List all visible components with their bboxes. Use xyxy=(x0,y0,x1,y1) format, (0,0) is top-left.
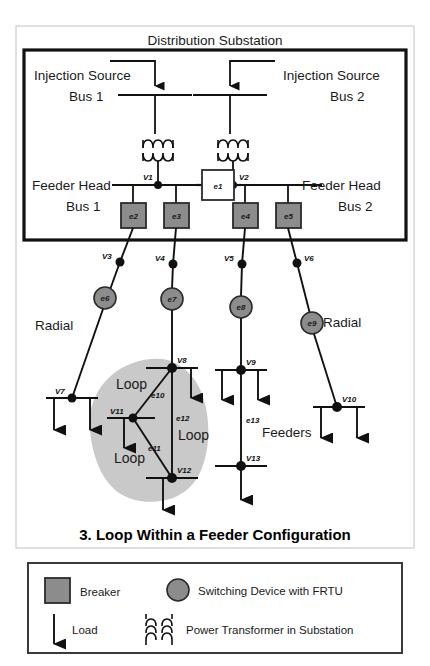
edge-e11-label: e11 xyxy=(148,444,161,453)
legend-switching-device-label: Switching Device with FRTU xyxy=(198,585,343,597)
node-v12-label: V12 xyxy=(177,466,192,475)
node-v10-label: V10 xyxy=(342,395,357,404)
node-v10 xyxy=(332,402,342,412)
switch-e8-label: e8 xyxy=(237,303,246,312)
switch-e7-label: e7 xyxy=(168,295,177,304)
edge-e13-label: e13 xyxy=(246,416,260,425)
feeders-label: Feeders xyxy=(262,425,312,440)
legend-box xyxy=(28,563,402,653)
node-v7-label: V7 xyxy=(55,387,65,396)
figure-title: 3. Loop Within a Feeder Configuration xyxy=(79,526,351,543)
legend-load-label: Load xyxy=(72,624,98,636)
breaker-e5-label: e5 xyxy=(284,212,293,221)
breaker-e2-label: e2 xyxy=(129,212,138,221)
loop-label-b: Loop xyxy=(178,427,209,443)
breaker-e3-label: e3 xyxy=(172,212,181,221)
breaker-e4-label: e4 xyxy=(241,212,250,221)
legend-breaker-icon xyxy=(45,578,70,603)
injection-source-1-label-line2: Bus 1 xyxy=(69,89,104,104)
legend-transformer-label: Power Transformer in Substation xyxy=(186,624,353,636)
injection-source-2-label-line1: Injection Source xyxy=(283,68,380,83)
feeder-head-1-label-line2: Bus 1 xyxy=(66,199,101,214)
feeder-head-2-label-line2: Bus 2 xyxy=(338,199,373,214)
node-v6-label: V6 xyxy=(304,254,314,263)
diagram-canvas: Distribution Substation Injection Source… xyxy=(0,0,430,666)
node-v3-label: V3 xyxy=(102,252,112,261)
legend-switching-device-icon xyxy=(167,579,189,601)
switch-e9-label: e9 xyxy=(308,319,317,328)
switch-e6-label: e6 xyxy=(101,294,110,303)
tie-switch-e1-label: e1 xyxy=(214,182,223,191)
node-v9-label: V9 xyxy=(246,358,256,367)
feeder-head-2-label-line1: Feeder Head xyxy=(302,178,381,193)
edge-e12-label: e12 xyxy=(176,414,190,423)
feeder-3-segment-mid xyxy=(241,264,242,296)
node-v12 xyxy=(167,473,177,483)
feeder-head-1-label-line1: Feeder Head xyxy=(32,178,111,193)
node-v11 xyxy=(129,414,138,423)
feeder-2-segment-mid xyxy=(172,264,173,289)
loop-label-a: Loop xyxy=(116,376,147,392)
node-v1 xyxy=(154,181,162,189)
substation-header: Distribution Substation xyxy=(147,33,282,48)
injection-source-2-label-line2: Bus 2 xyxy=(330,89,365,104)
node-v13-label: V13 xyxy=(246,454,261,463)
edge-e10-label: e10 xyxy=(151,391,165,400)
loop-label-c: Loop xyxy=(114,450,145,466)
node-v2-label: V2 xyxy=(239,173,249,182)
radial-right-label: Radial xyxy=(323,315,361,330)
node-v11-label: V11 xyxy=(110,407,124,416)
node-v8-label: V8 xyxy=(177,356,187,365)
node-v1-label: V1 xyxy=(143,173,153,182)
injection-source-1-label-line1: Injection Source xyxy=(34,68,131,83)
node-v5-label: V5 xyxy=(224,254,234,263)
node-v4-label: V4 xyxy=(155,254,165,263)
legend-breaker-label: Breaker xyxy=(80,586,120,598)
radial-left-label: Radial xyxy=(35,318,73,333)
